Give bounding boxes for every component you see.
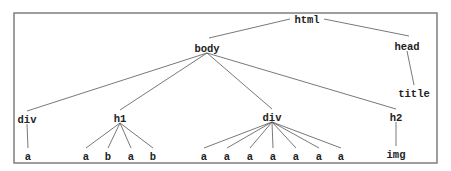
edge-h1-h1_b2 bbox=[120, 123, 153, 148]
node-body: body bbox=[194, 43, 220, 55]
edge-div2-div2_a6 bbox=[272, 122, 319, 148]
node-h1: h1 bbox=[114, 113, 127, 125]
node-div1: div bbox=[18, 114, 38, 126]
diagram-frame bbox=[14, 13, 437, 163]
edge-div2-div2_a1 bbox=[204, 122, 272, 148]
node-div2: div bbox=[263, 112, 283, 124]
node-div2_a1: a bbox=[201, 151, 208, 163]
node-div2_a5: a bbox=[293, 151, 300, 163]
edge-div2-div2_a2 bbox=[227, 122, 272, 148]
node-h1_a1: a bbox=[83, 151, 90, 163]
edge-h1-h1_b1 bbox=[108, 123, 120, 148]
node-div2_a3: a bbox=[247, 151, 254, 163]
edge-body-h1 bbox=[120, 53, 207, 110]
node-img: img bbox=[387, 149, 406, 161]
node-h1_b2: b bbox=[150, 151, 156, 163]
edge-html-head bbox=[324, 19, 409, 36]
tree-edges bbox=[27, 19, 414, 148]
node-div2_a7: a bbox=[338, 151, 345, 163]
edge-div2-div2_a4 bbox=[272, 122, 273, 148]
node-html: html bbox=[294, 14, 319, 26]
edge-div2-div2_a5 bbox=[272, 122, 296, 148]
node-title: title bbox=[398, 88, 430, 100]
edge-html-body bbox=[209, 19, 290, 38]
node-div1_a: a bbox=[25, 151, 32, 163]
edge-div2-div2_a7 bbox=[272, 122, 341, 148]
edge-head-title bbox=[407, 51, 414, 85]
node-div2_a6: a bbox=[316, 151, 323, 163]
node-head: head bbox=[394, 41, 419, 53]
node-div2_a4: a bbox=[270, 151, 277, 163]
node-div2_a2: a bbox=[224, 151, 231, 163]
edge-div1-div1_a bbox=[27, 124, 28, 148]
edge-body-h2 bbox=[207, 53, 396, 109]
node-h1_a2: a bbox=[128, 151, 135, 163]
edge-body-div2 bbox=[207, 53, 272, 109]
dom-tree-diagram: htmlbodyheadtitledivah1ababdivaaaaaaah2i… bbox=[0, 0, 451, 171]
node-h1_b1: b bbox=[105, 151, 111, 163]
edge-body-div1 bbox=[27, 53, 207, 111]
edge-h1-h1_a1 bbox=[86, 123, 120, 148]
node-h2: h2 bbox=[390, 112, 403, 124]
